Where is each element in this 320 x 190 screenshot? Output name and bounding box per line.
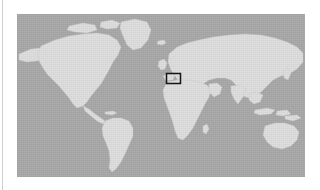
page-root <box>0 0 320 190</box>
page-edge-rule <box>2 0 3 190</box>
world-map-figure <box>17 14 305 177</box>
world-map-canvas <box>17 14 305 177</box>
